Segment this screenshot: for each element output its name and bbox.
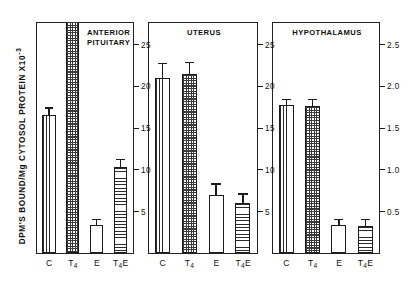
y-axis-uterus-right-label: 10 bbox=[265, 165, 275, 174]
y-axis-hypothalamus-right-tick bbox=[380, 86, 385, 87]
y-axis-label: DPM'S BOUND/Mg CYTOSOL PROTEIN X10-3 bbox=[15, 28, 27, 264]
error-cap-anterior-pituitary-c bbox=[45, 107, 53, 108]
y-axis-hypothalamus-right-tick bbox=[380, 211, 385, 212]
error-cap-anterior-pituitary-t4e bbox=[116, 159, 124, 160]
y-axis-anterior-pituitary-label: 10 bbox=[141, 165, 151, 174]
error-bar-uterus-e bbox=[215, 185, 216, 197]
x-tick-label-uterus-t4e: T4E bbox=[235, 258, 251, 269]
bar-uterus-t4 bbox=[182, 74, 197, 253]
panel-uterus: UTERUS bbox=[148, 22, 258, 254]
y-axis-hypothalamus-right-label: 2.0 bbox=[387, 82, 400, 91]
y-axis-hypothalamus-right-label: 0.5 bbox=[387, 207, 400, 216]
error-bar-hypothalamus-e bbox=[338, 220, 339, 226]
error-cap-uterus-t4 bbox=[185, 62, 194, 63]
y-axis-uterus-right-tick bbox=[258, 211, 263, 212]
x-tick-label-hypothalamus-t4e: T4E bbox=[358, 258, 374, 269]
y-axis-uterus-right-tick bbox=[258, 44, 263, 45]
y-axis-uterus-right-tick bbox=[258, 169, 263, 170]
y-axis-uterus-right-label: 5 bbox=[265, 207, 270, 216]
y-axis-uterus-right-tick bbox=[258, 86, 263, 87]
error-bar-hypothalamus-c bbox=[286, 100, 287, 105]
x-tick-label-hypothalamus-e: E bbox=[336, 258, 342, 268]
y-axis-uterus-right-label: 25 bbox=[265, 40, 275, 49]
y-axis-anterior-pituitary-tick bbox=[134, 128, 139, 129]
y-axis-anterior-pituitary-tick bbox=[134, 169, 139, 170]
plot-area-anterior-pituitary bbox=[37, 23, 133, 253]
panel-hypothalamus: HYPOTHALAMUS bbox=[272, 22, 380, 254]
figure-canvas: DPM'S BOUND/Mg CYTOSOL PROTEIN X10-3 ANT… bbox=[0, 0, 413, 293]
x-tick-label-anterior-pituitary-t4: T4 bbox=[68, 258, 78, 269]
error-bar-uterus-t4e bbox=[242, 195, 243, 205]
bar-hypothalamus-t4 bbox=[305, 106, 320, 253]
y-axis-anterior-pituitary-label: 20 bbox=[141, 82, 151, 91]
error-cap-hypothalamus-c bbox=[282, 99, 291, 100]
bar-hypothalamus-e bbox=[331, 225, 346, 253]
plot-area-hypothalamus bbox=[273, 23, 379, 253]
bar-hypothalamus-t4e bbox=[358, 226, 373, 253]
error-cap-hypothalamus-t4e bbox=[361, 219, 370, 220]
y-axis-hypothalamus-right-tick bbox=[380, 44, 385, 45]
x-tick-label-uterus-t4: T4 bbox=[185, 258, 195, 269]
y-axis-uterus-right-label: 15 bbox=[265, 124, 275, 133]
y-axis-hypothalamus-right-tick bbox=[380, 169, 385, 170]
error-bar-hypothalamus-t4 bbox=[312, 100, 313, 107]
y-axis-anterior-pituitary-tick bbox=[134, 211, 139, 212]
y-axis-label-exponent: -3 bbox=[15, 47, 22, 54]
error-cap-anterior-pituitary-e bbox=[92, 219, 100, 220]
bar-anterior-pituitary-t4 bbox=[66, 22, 79, 253]
error-bar-hypothalamus-t4e bbox=[365, 220, 366, 227]
y-axis-anterior-pituitary-tick bbox=[134, 44, 139, 45]
error-bar-uterus-t4 bbox=[189, 63, 190, 75]
y-axis-hypothalamus-right-tick bbox=[380, 128, 385, 129]
y-axis-anterior-pituitary: 510152025 bbox=[134, 22, 135, 254]
bar-uterus-c bbox=[155, 78, 170, 253]
x-tick-labels-anterior-pituitary: CT4ET4E bbox=[36, 258, 134, 278]
error-bar-anterior-pituitary-t4e bbox=[120, 160, 121, 168]
y-axis-uterus-right-tick bbox=[258, 128, 263, 129]
x-tick-label-hypothalamus-t4: T4 bbox=[308, 258, 318, 269]
y-axis-label-text: DPM'S BOUND/Mg CYTOSOL PROTEIN X10 bbox=[18, 55, 27, 244]
y-axis-anterior-pituitary-label: 25 bbox=[141, 40, 151, 49]
y-axis-hypothalamus-right-label: 1.5 bbox=[387, 124, 400, 133]
y-axis-hypothalamus-right: 0.51.01.52.02.5 bbox=[380, 22, 381, 254]
bar-anterior-pituitary-c bbox=[42, 115, 55, 253]
error-bar-uterus-c bbox=[162, 64, 163, 79]
error-bar-anterior-pituitary-c bbox=[48, 109, 49, 117]
y-axis-uterus-right: 510152025 bbox=[258, 22, 259, 254]
bar-hypothalamus-c bbox=[279, 105, 294, 253]
y-axis-hypothalamus-right-label: 2.5 bbox=[387, 40, 400, 49]
x-tick-label-hypothalamus-c: C bbox=[283, 258, 290, 268]
bar-anterior-pituitary-e bbox=[90, 225, 103, 253]
panel-title-uterus: UTERUS bbox=[149, 28, 259, 38]
plot-area-uterus bbox=[149, 23, 257, 253]
x-tick-label-anterior-pituitary-c: C bbox=[46, 258, 53, 268]
y-axis-anterior-pituitary-tick bbox=[134, 86, 139, 87]
y-axis-hypothalamus-right-label: 1.0 bbox=[387, 165, 400, 174]
bar-anterior-pituitary-t4e bbox=[114, 167, 127, 253]
panel-title-hypothalamus: HYPOTHALAMUS bbox=[273, 28, 381, 38]
bar-uterus-e bbox=[209, 195, 224, 253]
panel-title-anterior-pituitary: ANTERIOR PITUITARY bbox=[87, 28, 130, 47]
error-cap-hypothalamus-e bbox=[334, 219, 343, 220]
x-tick-labels-hypothalamus: CT4ET4E bbox=[272, 258, 380, 278]
y-axis-anterior-pituitary-label: 5 bbox=[141, 207, 146, 216]
y-axis-uterus-right-label: 20 bbox=[265, 82, 275, 91]
error-cap-uterus-c bbox=[158, 63, 167, 64]
error-bar-anterior-pituitary-e bbox=[96, 220, 97, 226]
x-tick-label-uterus-c: C bbox=[159, 258, 166, 268]
x-tick-labels-uterus: CT4ET4E bbox=[148, 258, 258, 278]
x-tick-label-anterior-pituitary-t4e: T4E bbox=[113, 258, 129, 269]
panel-anterior-pituitary: ANTERIOR PITUITARY bbox=[36, 22, 134, 254]
error-cap-uterus-e bbox=[211, 183, 220, 184]
bar-uterus-t4e bbox=[235, 203, 250, 253]
x-tick-label-uterus-e: E bbox=[213, 258, 219, 268]
error-cap-hypothalamus-t4 bbox=[308, 99, 317, 100]
x-tick-label-anterior-pituitary-e: E bbox=[94, 258, 100, 268]
error-cap-uterus-t4e bbox=[238, 193, 247, 194]
y-axis-anterior-pituitary-label: 15 bbox=[141, 124, 151, 133]
